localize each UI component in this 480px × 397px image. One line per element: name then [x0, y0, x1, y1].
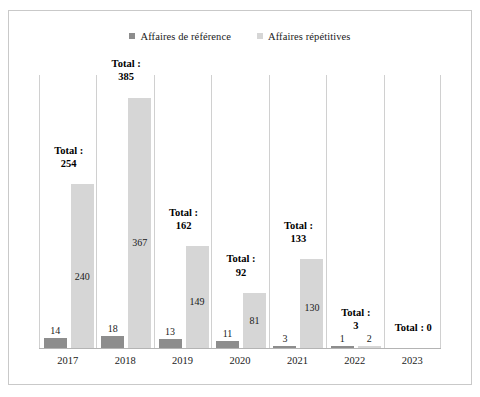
bar-reference-2018 — [101, 336, 124, 348]
bar-reference-2020 — [216, 341, 239, 349]
legend-label-repetitives: Affaires répétitives — [268, 31, 351, 42]
bar-group-2023: Total : 0 — [384, 75, 441, 348]
value-label-repetitives-2017: 240 — [67, 271, 98, 282]
bar-repetitives-2022 — [358, 346, 381, 348]
chart-legend: Affaires de référence Affaires répétitiv… — [9, 31, 471, 42]
total-label-2021: Total :133 — [270, 219, 327, 245]
square-marker-icon — [257, 33, 263, 39]
value-label-reference-2017: 14 — [40, 325, 71, 336]
bar-group-2022: 12Total :3 — [326, 75, 383, 348]
x-axis-tick-2017: 2017 — [39, 355, 96, 366]
bar-group-2021: 3130Total :133 — [269, 75, 326, 348]
value-label-reference-2021: 3 — [269, 333, 300, 344]
bar-group-2019: 13149Total :162 — [154, 75, 211, 348]
total-label-2020: Total :92 — [212, 252, 269, 278]
bar-group-2020: 1181Total :92 — [211, 75, 268, 348]
total-label-2023: Total : 0 — [385, 321, 442, 334]
bar-reference-2021 — [273, 346, 296, 348]
bar-reference-2019 — [159, 339, 182, 348]
x-axis-tick-2023: 2023 — [384, 355, 441, 366]
value-label-repetitives-2020: 81 — [239, 315, 270, 326]
chart-plot-area: 14240Total :254201718367Total :385201813… — [39, 75, 441, 348]
legend-item-affaires-repetitives: Affaires répétitives — [257, 31, 351, 42]
x-axis-tick-2022: 2022 — [326, 355, 383, 366]
bar-repetitives-2017 — [71, 184, 94, 348]
total-label-2017: Total :254 — [40, 144, 97, 170]
chart-figure-frame: Affaires de référence Affaires répétitiv… — [8, 10, 472, 385]
total-label-2018: Total :385 — [97, 57, 154, 83]
x-axis-tick-2018: 2018 — [96, 355, 153, 366]
x-axis-tick-2019: 2019 — [154, 355, 211, 366]
total-label-2019: Total :162 — [155, 206, 212, 232]
value-label-reference-2019: 13 — [155, 326, 186, 337]
x-axis-line — [39, 348, 441, 349]
total-label-2022: Total :3 — [327, 306, 384, 332]
value-label-reference-2018: 18 — [97, 323, 128, 334]
value-label-reference-2020: 11 — [212, 328, 243, 339]
bar-group-2017: 14240Total :254 — [39, 75, 96, 348]
square-marker-icon — [129, 33, 135, 39]
bar-reference-2017 — [44, 338, 67, 348]
value-label-repetitives-2022: 2 — [354, 333, 385, 344]
bar-group-2018: 18367Total :385 — [96, 75, 153, 348]
x-axis-tick-2020: 2020 — [211, 355, 268, 366]
bar-reference-2022 — [331, 346, 354, 348]
value-label-repetitives-2018: 367 — [124, 237, 155, 248]
bar-repetitives-2018 — [128, 98, 151, 348]
x-axis-tick-2021: 2021 — [269, 355, 326, 366]
legend-item-affaires-de-reference: Affaires de référence — [129, 31, 231, 42]
value-label-repetitives-2021: 130 — [296, 302, 327, 313]
value-label-repetitives-2019: 149 — [182, 296, 213, 307]
legend-label-reference: Affaires de référence — [140, 31, 231, 42]
